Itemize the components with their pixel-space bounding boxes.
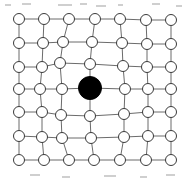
lattice-diagram-canvas: [0, 0, 195, 180]
host-atom-node-r2-c3: [85, 59, 96, 70]
host-atom-node-r3-c4: [120, 84, 131, 95]
host-atom-node-r4-c4: [119, 109, 130, 120]
host-atom-node-r6-c1: [39, 155, 50, 166]
host-atom-node-r6-c5: [141, 155, 152, 166]
lattice-bond-h-r0-c4: [126, 19, 141, 20]
lattice-bond-h-r2-c2: [66, 63, 85, 64]
lattice-bond-v-r0-c5: [146, 26, 147, 39]
scan-noise-speck-3: [80, 3, 87, 5]
host-atom-node-r6-c3: [89, 155, 100, 166]
host-atom-node-r1-c4: [117, 38, 128, 49]
host-atom-node-r0-c3: [90, 14, 101, 25]
host-atom-node-r1-c2: [58, 37, 69, 48]
lattice-bond-h-r5-c0: [24, 136, 36, 137]
lattice-bond-v-r1-c4: [122, 48, 123, 60]
host-atom-node-r4-c5: [143, 107, 154, 118]
host-atom-node-r5-c4: [119, 132, 130, 143]
host-atom-node-r4-c6: [166, 107, 177, 118]
scan-noise-speck-8: [30, 174, 40, 176]
host-atom-node-r2-c6: [166, 62, 177, 73]
host-atom-node-r4-c1: [37, 107, 48, 118]
defect-atom-node: [79, 77, 102, 100]
host-atom-node-r3-c1: [35, 84, 46, 95]
host-atom-node-r5-c0: [14, 131, 25, 142]
lattice-bond-v-r4-c2: [61, 120, 62, 132]
host-atom-node-r5-c6: [166, 131, 177, 142]
lattice-bond-v-r2-c5: [147, 72, 148, 83]
scan-noise-speck-5: [118, 4, 123, 6]
host-atom-node-r2-c4: [118, 61, 129, 72]
host-atom-node-r4-c0: [14, 107, 25, 118]
host-atom-node-r4-c3: [85, 111, 96, 122]
lattice-bond-h-r1-c3: [98, 42, 117, 43]
lattice-bond-h-r5-c3: [97, 137, 119, 138]
host-atom-node-r5-c3: [86, 133, 97, 144]
scan-noise-speck-6: [152, 3, 160, 5]
host-atom-node-r0-c1: [39, 14, 50, 25]
host-atom-node-r0-c4: [115, 14, 126, 25]
lattice-bond-h-r5-c4: [130, 136, 143, 137]
host-atom-node-r2-c0: [14, 62, 25, 73]
lattice-bond-v-r4-c3: [90, 121, 91, 132]
host-atom-node-r5-c2: [57, 133, 68, 144]
host-atom-node-r1-c0: [14, 38, 25, 49]
host-atom-node-r2-c1: [37, 62, 48, 73]
lattice-bond-h-r2-c4: [129, 66, 142, 67]
lattice-bond-v-r3-c4: [124, 95, 125, 109]
host-atom-node-r3-c2: [57, 84, 68, 95]
host-atom-node-r3-c5: [143, 84, 154, 95]
scan-noise-speck-10: [104, 175, 116, 177]
host-atom-node-r2-c2: [55, 58, 66, 69]
host-atom-node-r1-c6: [166, 39, 177, 50]
lattice-bond-h-r4-c2: [67, 115, 85, 116]
host-atom-node-r5-c1: [37, 132, 48, 143]
host-atom-node-r6-c0: [14, 155, 25, 166]
scan-noise-speck-2: [58, 4, 72, 6]
host-atom-node-r3-c6: [166, 84, 177, 95]
host-atom-node-r2-c5: [142, 62, 153, 73]
host-atom-node-r0-c5: [141, 15, 152, 26]
lattice-bond-v-r0-c1: [43, 25, 44, 38]
scan-noise-speck-4: [96, 5, 106, 7]
lattice-bond-h-r1-c4: [128, 43, 142, 44]
host-atom-node-r1-c3: [87, 37, 98, 48]
host-atom-node-r0-c0: [14, 14, 25, 25]
scan-noise-speck-9: [62, 176, 70, 178]
lattice-defect-figure: [0, 0, 195, 180]
host-atom-node-r6-c4: [115, 155, 126, 166]
scan-noise-speck-1: [22, 3, 31, 5]
host-atom-node-r0-c2: [64, 14, 75, 25]
lattice-bond-h-r3-c3: [102, 88, 120, 89]
host-atom-node-r1-c5: [142, 39, 153, 50]
lattice-bond-v-r1-c1: [42, 49, 43, 62]
host-atom-node-r1-c1: [38, 38, 49, 49]
lattice-bond-v-r3-c2: [61, 95, 62, 110]
host-atom-node-r6-c2: [64, 155, 75, 166]
host-atom-node-r0-c6: [166, 15, 177, 26]
host-atom-node-r3-c0: [14, 84, 25, 95]
host-atom-node-r6-c6: [166, 155, 177, 166]
scan-noise-speck-12: [166, 174, 175, 176]
host-atom-node-r5-c5: [143, 131, 154, 142]
host-atom-node-r4-c2: [56, 110, 67, 121]
scan-noise-speck-0: [5, 4, 11, 6]
scan-noise-speck-7: [176, 5, 182, 7]
scan-noise-speck-11: [140, 176, 147, 178]
